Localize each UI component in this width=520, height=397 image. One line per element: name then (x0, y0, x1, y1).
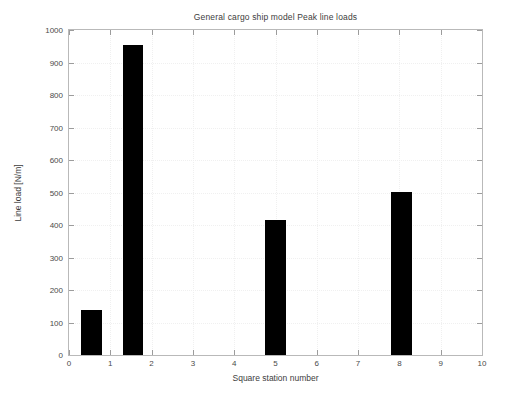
gridline-vertical (358, 30, 359, 355)
y-tick-label: 0 (59, 351, 63, 360)
x-tick-mark-top (152, 30, 153, 35)
figure-canvas: General cargo ship model Peak line loads… (0, 0, 520, 397)
x-tick-label: 1 (108, 359, 112, 368)
y-tick-mark (69, 323, 74, 324)
y-tick-mark (69, 225, 74, 226)
x-tick-label: 8 (397, 359, 401, 368)
x-tick-mark (441, 350, 442, 355)
x-tick-mark (193, 350, 194, 355)
y-tick-label: 900 (50, 58, 63, 67)
x-tick-label: 0 (67, 359, 71, 368)
gridline-vertical (441, 30, 442, 355)
bar (123, 45, 144, 355)
x-tick-mark (69, 350, 70, 355)
y-tick-mark-right (477, 160, 482, 161)
x-tick-mark-top (441, 30, 442, 35)
y-tick-mark-right (477, 95, 482, 96)
x-tick-mark (110, 350, 111, 355)
x-tick-mark-top (234, 30, 235, 35)
x-tick-label: 10 (478, 359, 487, 368)
y-tick-mark-right (477, 63, 482, 64)
y-tick-label: 800 (50, 91, 63, 100)
gridline-vertical (317, 30, 318, 355)
y-tick-mark (69, 95, 74, 96)
x-tick-mark-top (110, 30, 111, 35)
plot-inner (69, 30, 482, 355)
y-tick-label: 1000 (45, 26, 63, 35)
x-tick-mark-top (193, 30, 194, 35)
x-axis-label: Square station number (68, 373, 483, 383)
x-tick-mark-top (358, 30, 359, 35)
gridline-vertical (193, 30, 194, 355)
y-axis-label-text: Line load [N/m] (13, 164, 23, 221)
y-tick-label: 500 (50, 188, 63, 197)
x-tick-mark-top (399, 30, 400, 35)
y-tick-mark (69, 63, 74, 64)
x-tick-mark-top (69, 30, 70, 35)
x-tick-label: 9 (438, 359, 442, 368)
x-tick-mark (317, 350, 318, 355)
x-tick-mark-top (317, 30, 318, 35)
x-tick-label: 6 (315, 359, 319, 368)
plot-area: 0100200300400500600700800900100001234567… (68, 29, 483, 356)
y-tick-mark (69, 193, 74, 194)
y-tick-mark (69, 258, 74, 259)
y-tick-label: 300 (50, 253, 63, 262)
y-tick-mark-right (477, 193, 482, 194)
y-tick-mark (69, 290, 74, 291)
x-tick-mark-top (276, 30, 277, 35)
gridline-vertical (234, 30, 235, 355)
gridline-vertical (110, 30, 111, 355)
y-tick-label: 200 (50, 286, 63, 295)
y-tick-label: 100 (50, 318, 63, 327)
bar (391, 192, 412, 355)
y-axis-label: Line load [N/m] (12, 29, 24, 356)
y-tick-mark-right (477, 225, 482, 226)
y-tick-label: 400 (50, 221, 63, 230)
bar (265, 220, 286, 355)
y-tick-label: 600 (50, 156, 63, 165)
x-tick-label: 5 (273, 359, 277, 368)
x-tick-label: 7 (356, 359, 360, 368)
y-tick-mark (69, 160, 74, 161)
x-tick-mark (152, 350, 153, 355)
y-tick-mark (69, 128, 74, 129)
bar (81, 310, 102, 356)
x-tick-label: 4 (232, 359, 236, 368)
y-tick-label: 700 (50, 123, 63, 132)
y-tick-mark-right (477, 323, 482, 324)
y-tick-mark-right (477, 258, 482, 259)
chart-title: General cargo ship model Peak line loads (68, 12, 483, 22)
x-tick-label: 3 (191, 359, 195, 368)
gridline-vertical (152, 30, 153, 355)
x-tick-mark (358, 350, 359, 355)
y-tick-mark-right (477, 128, 482, 129)
y-tick-mark-right (477, 290, 482, 291)
x-tick-mark (234, 350, 235, 355)
x-tick-label: 2 (149, 359, 153, 368)
